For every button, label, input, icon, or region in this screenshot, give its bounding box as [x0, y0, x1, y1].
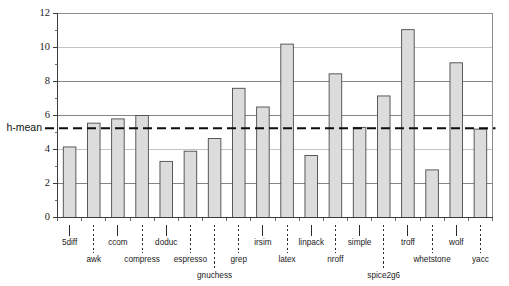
x-tick-label-awk: awk [86, 255, 101, 264]
y-tick-label-0: 0 [45, 211, 50, 222]
x-tick-label-doduc: doduc [155, 238, 177, 247]
y-tick-label-12: 12 [40, 7, 51, 18]
bar-troff [402, 30, 415, 218]
bar-compress [136, 116, 149, 218]
bar-linpack [305, 155, 318, 217]
bar-whetstone [426, 170, 439, 218]
y-tick-label-2: 2 [45, 177, 50, 188]
x-tick-label-gnuchess: gnuchess [197, 271, 232, 280]
bar-awk [87, 123, 100, 217]
x-tick-label-nroff: nroff [327, 255, 344, 264]
x-tick-label-5diff: 5diff [62, 238, 78, 247]
bar-grep [232, 88, 245, 217]
hmean-label: h-mean [6, 121, 42, 133]
bar-spice2g6 [377, 96, 390, 218]
benchmark-bar-chart: h-mean 024681012 5diffawkccomcompressdod… [0, 0, 509, 286]
x-tick-label-spice2g6: spice2g6 [367, 271, 400, 280]
bar-ccom [112, 119, 125, 218]
x-tick-label-ccom: ccom [108, 238, 128, 247]
x-tick-label-whetstone: whetstone [412, 255, 451, 264]
x-tick-label-espresso: espresso [174, 255, 208, 264]
bar-simple [353, 127, 366, 217]
y-tick-label-4: 4 [45, 143, 51, 154]
x-tick-label-grep: grep [231, 255, 248, 264]
x-tick-label-compress: compress [124, 255, 160, 264]
bar-irsim [257, 107, 270, 218]
bar-espresso [184, 151, 197, 217]
bar-gnuchess [208, 138, 221, 217]
x-tick-label-irsim: irsim [254, 238, 271, 247]
chart-canvas: h-mean 024681012 5diffawkccomcompressdod… [0, 0, 509, 286]
x-tick-label-latex: latex [278, 255, 295, 264]
bar-wolf [450, 63, 463, 218]
bar-doduc [160, 161, 173, 217]
x-tick-label-troff: troff [401, 238, 416, 247]
y-tick-label-6: 6 [45, 109, 50, 120]
y-tick-label-8: 8 [45, 75, 50, 86]
y-tick-label-10: 10 [40, 41, 51, 52]
x-tick-label-wolf: wolf [448, 238, 464, 247]
bar-yacc [474, 129, 487, 217]
bar-latex [281, 44, 294, 217]
x-tick-label-simple: simple [348, 238, 372, 247]
bar-5diff [63, 147, 76, 218]
x-tick-label-yacc: yacc [472, 255, 489, 264]
bar-nroff [329, 74, 342, 218]
x-tick-label-linpack: linpack [299, 238, 325, 247]
